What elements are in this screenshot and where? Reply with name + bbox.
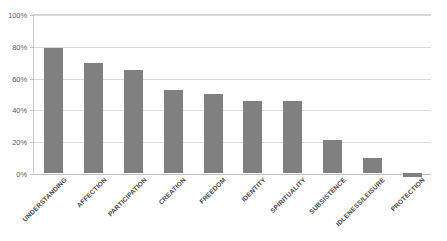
gridline-0 xyxy=(34,174,431,175)
y-axis-label: 60% xyxy=(12,74,27,83)
x-axis-label-freedom: FREEDOM xyxy=(198,176,227,205)
bar-chart: 0%20%40%60%80%100% UNDERSTANDINGAFFECTIO… xyxy=(0,0,447,241)
y-axis-label: 80% xyxy=(12,42,27,51)
bar-spirituality[interactable] xyxy=(283,101,302,173)
y-axis-label: 40% xyxy=(12,106,27,115)
x-axis-label-identity: IDENTITY xyxy=(240,176,267,203)
y-axis-label: 100% xyxy=(8,11,27,20)
bars-layer xyxy=(34,15,431,173)
x-axis-label-participation: PARTICIPATION xyxy=(106,176,148,218)
y-axis-label: 20% xyxy=(12,138,27,147)
x-axis-label-spirituality: SPIRITUALITY xyxy=(269,176,307,214)
y-axis-label: 0% xyxy=(16,170,27,179)
bar-subsistence[interactable] xyxy=(323,140,342,173)
bar-creation[interactable] xyxy=(164,90,183,173)
x-axis-label-subsistence: SUBSISTENCE xyxy=(307,176,346,215)
bar-participation[interactable] xyxy=(124,70,143,173)
plot-area: 0%20%40%60%80%100% xyxy=(33,14,431,173)
x-axis-label-creation: CREATION xyxy=(157,176,187,206)
bar-affection[interactable] xyxy=(84,63,103,173)
x-axis-label-affection: AFFECTION xyxy=(75,176,108,209)
bar-understanding[interactable] xyxy=(44,48,63,173)
x-axis-labels: UNDERSTANDINGAFFECTIONPARTICIPATIONCREAT… xyxy=(33,176,431,240)
x-axis-label-protection: PROTECTION xyxy=(389,176,426,213)
x-axis-label-understanding: UNDERSTANDING xyxy=(21,176,68,223)
y-tick-mark xyxy=(30,174,34,175)
bar-idleness-leisure[interactable] xyxy=(363,158,382,173)
bar-freedom[interactable] xyxy=(204,94,223,173)
bar-identity[interactable] xyxy=(243,101,262,173)
